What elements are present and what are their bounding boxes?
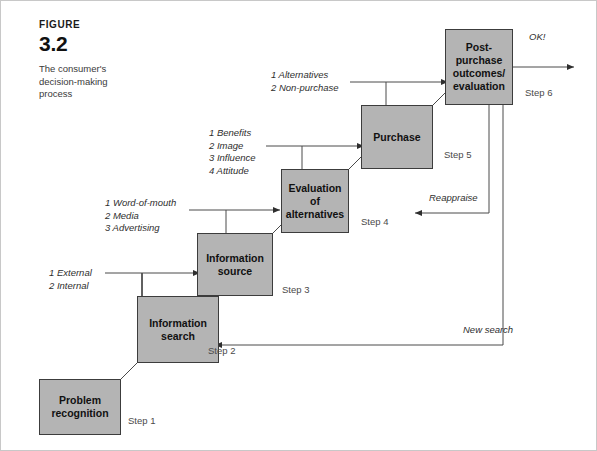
step-label-4: Step 4	[361, 216, 388, 227]
input-label-information-source: 1 External 2 Internal	[49, 267, 92, 292]
figure-number: 3.2	[39, 32, 117, 56]
joint-1-2	[121, 363, 137, 379]
figure-caption-block: FIGURE 3.2 The consumer's decision-makin…	[39, 19, 117, 101]
figure-caption-text: The consumer's decision-making process	[39, 63, 117, 101]
figure-container: FIGURE 3.2 The consumer's decision-makin…	[0, 0, 597, 451]
input-label-purchase: 1 Benefits 2 Image 3 Influence 4 Attitud…	[209, 127, 255, 177]
arrow-new-search-feedback	[215, 105, 503, 345]
node-evaluation-of-alternatives[interactable]: Evaluation of alternatives	[281, 169, 349, 233]
figure-kicker: FIGURE	[39, 19, 117, 31]
step-label-2: Step 2	[208, 345, 235, 356]
node-problem-recognition[interactable]: Problem recognition	[39, 379, 121, 435]
step-label-3: Step 3	[282, 284, 309, 295]
node-post-purchase[interactable]: Post- purchase outcomes/ evaluation	[445, 29, 513, 105]
node-information-source[interactable]: Information source	[197, 233, 273, 296]
step-label-6: Step 6	[525, 87, 552, 98]
node-information-search[interactable]: Information search	[137, 296, 219, 363]
flow-label-reappraise: Reappraise	[429, 192, 478, 203]
step-label-1: Step 1	[128, 415, 155, 426]
flow-label-new-search: New search	[463, 324, 513, 335]
input-label-post-purchase: 1 Alternatives 2 Non-purchase	[271, 69, 339, 94]
input-label-evaluation: 1 Word-of-mouth 2 Media 3 Advertising	[105, 197, 176, 235]
flow-label-ok: OK!	[529, 31, 545, 42]
node-purchase[interactable]: Purchase	[361, 105, 433, 169]
step-label-5: Step 5	[444, 149, 471, 160]
